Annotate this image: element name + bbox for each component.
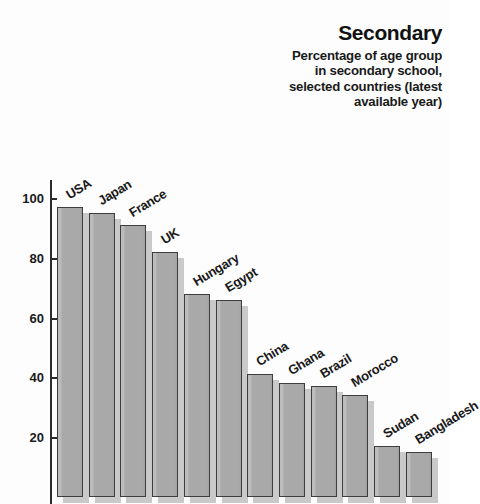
bar-egypt: Egypt (216, 300, 250, 497)
bar-body (247, 374, 273, 496)
bar-body (342, 395, 368, 497)
plot-area: 10080604020 USAJapanFranceUKHungaryEgypt… (0, 180, 450, 504)
bar-body (89, 213, 115, 497)
bar-body (374, 446, 400, 497)
bar-brazil: Brazil (311, 386, 345, 497)
chart-subtitle: Percentage of age group in secondary sch… (174, 48, 442, 109)
bar-body (216, 300, 242, 497)
bar-body (57, 207, 83, 497)
bar-body (152, 252, 178, 497)
bar-uk: UK (152, 252, 186, 497)
bar-sudan: Sudan (374, 446, 408, 497)
bar-label: Japan (95, 176, 134, 207)
bar-series: USAJapanFranceUKHungaryEgyptChinaGhanaBr… (0, 180, 450, 504)
bar-body (279, 383, 305, 497)
bar-japan: Japan (89, 213, 123, 497)
bar-label: France (127, 186, 170, 220)
bar-body (120, 225, 146, 497)
bar-usa: USA (57, 207, 91, 497)
bar-body (184, 294, 210, 497)
bar-label: Morocco (349, 351, 401, 391)
bar-morocco: Morocco (342, 395, 376, 497)
subtitle-line-2: in secondary school, (174, 63, 442, 78)
bar-france: France (120, 225, 154, 497)
bar-body (311, 386, 337, 497)
chart-header: Secondary Percentage of age group in sec… (174, 22, 442, 109)
bar-body (406, 452, 432, 497)
subtitle-line-4: available year) (174, 94, 442, 109)
subtitle-line-1: Percentage of age group (174, 48, 442, 63)
bar-bangladesh: Bangladesh (406, 452, 440, 497)
bar-label: USA (63, 175, 93, 202)
bar-ghana: Ghana (279, 383, 313, 497)
bar-label: Bangladesh (412, 398, 480, 447)
page-title: Secondary (174, 22, 442, 44)
subtitle-line-3: selected countries (latest (174, 79, 442, 94)
bar-label: UK (158, 225, 181, 247)
bar-china: China (247, 374, 281, 496)
bar-hungary: Hungary (184, 294, 218, 497)
